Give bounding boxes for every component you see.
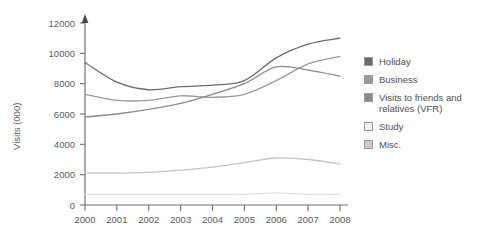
y-axis-arrow-icon <box>82 14 89 23</box>
x-axis-tick-label: 2002 <box>138 214 159 225</box>
x-axis-tick-label: 2004 <box>202 214 223 225</box>
x-axis-ticks: 200020012002200320042005200620072008 <box>74 205 350 225</box>
y-axis-title: Visits (000) <box>11 103 22 150</box>
data-series-line <box>85 158 340 173</box>
legend-item[interactable]: Business <box>364 74 490 85</box>
y-axis-ticks: 020004000600080001000012000 <box>49 18 85 211</box>
y-axis-tick-label: 0 <box>70 200 75 211</box>
y-axis-tick-label: 6000 <box>54 109 75 120</box>
x-axis-tick-label: 2008 <box>329 214 350 225</box>
legend-swatch-icon <box>364 57 373 66</box>
data-series-line <box>85 66 340 117</box>
y-axis-tick-label: 2000 <box>54 169 75 180</box>
chart-figure: 020004000600080001000012000 200020012002… <box>0 0 492 244</box>
legend-item-label: Holiday <box>379 56 411 67</box>
legend-swatch-icon <box>364 140 373 149</box>
legend-item-label: Misc. <box>379 139 401 150</box>
legend-item-label: Business <box>379 74 418 85</box>
legend-item-label: Study <box>379 121 403 132</box>
x-axis-tick-label: 2001 <box>106 214 127 225</box>
legend-item[interactable]: Study <box>364 121 490 132</box>
x-axis-tick-label: 2007 <box>298 214 319 225</box>
y-axis-tick-label: 8000 <box>54 78 75 89</box>
legend-item-label: Visits to friends and relatives (VFR) <box>379 92 462 114</box>
legend-swatch-icon <box>364 122 373 131</box>
x-axis-tick-label: 2000 <box>74 214 95 225</box>
legend-swatch-icon <box>364 75 373 84</box>
legend-swatch-icon <box>364 93 373 102</box>
y-axis-tick-label: 12000 <box>49 18 75 29</box>
data-series-line <box>85 38 340 90</box>
legend-item[interactable]: Misc. <box>364 139 490 150</box>
x-axis-tick-label: 2003 <box>170 214 191 225</box>
data-series-line <box>85 193 340 195</box>
x-axis-tick-label: 2006 <box>266 214 287 225</box>
legend-item[interactable]: Visits to friends and relatives (VFR) <box>364 92 490 114</box>
y-axis-tick-label: 4000 <box>54 139 75 150</box>
x-axis-tick-label: 2005 <box>234 214 255 225</box>
chart-legend: HolidayBusinessVisits to friends and rel… <box>364 56 490 157</box>
legend-item[interactable]: Holiday <box>364 56 490 67</box>
data-series-group <box>85 38 340 194</box>
y-axis-tick-label: 10000 <box>49 48 75 59</box>
